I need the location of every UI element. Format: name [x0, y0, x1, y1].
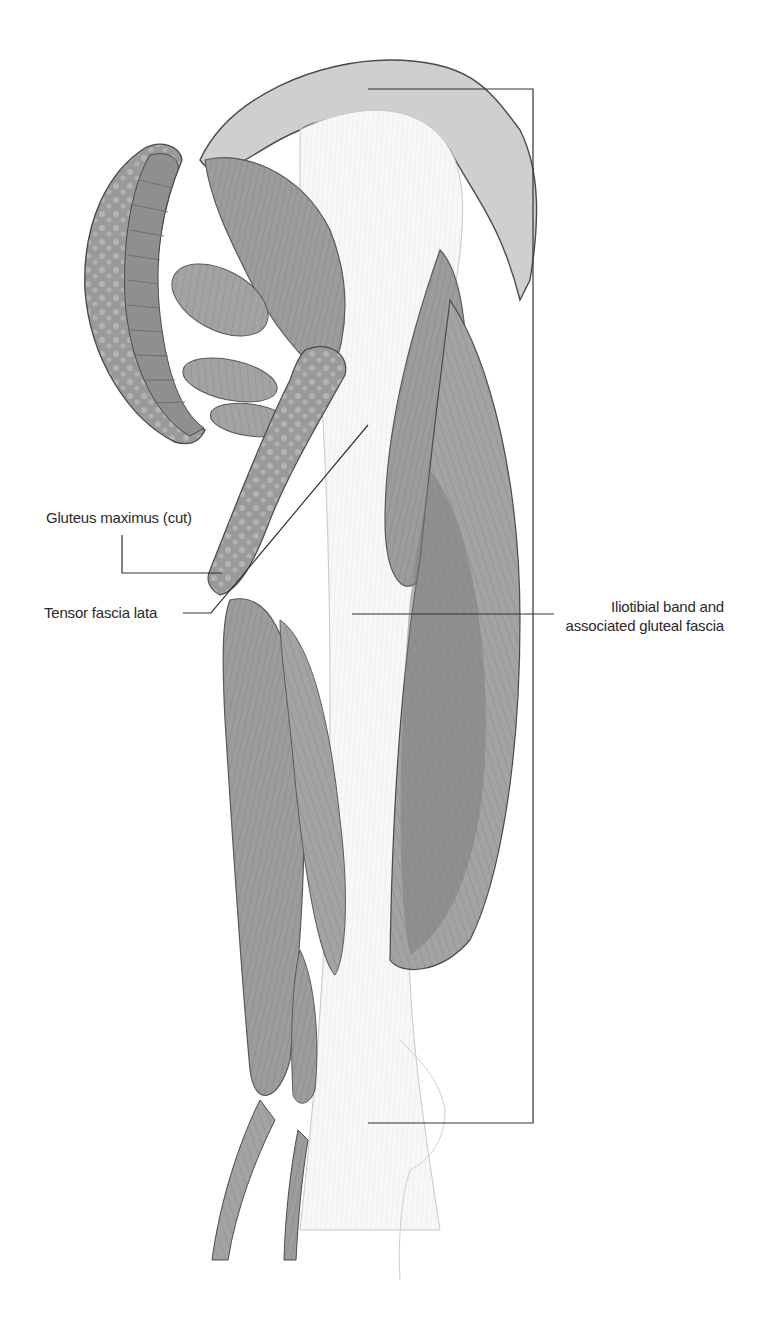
- label-iliotibial-line2: associated gluteal fascia: [530, 616, 724, 635]
- obturator: [179, 350, 281, 409]
- label-gluteus-maximus: Gluteus maximus (cut): [46, 508, 192, 527]
- gluteus-maximus-leader: [122, 535, 222, 573]
- short-head-biceps: [292, 950, 317, 1103]
- thigh-anatomy-illustration: [0, 0, 760, 1320]
- label-tensor-fascia-lata: Tensor fascia lata: [44, 603, 157, 622]
- label-iliotibial-line1: Iliotibial band and: [560, 597, 724, 616]
